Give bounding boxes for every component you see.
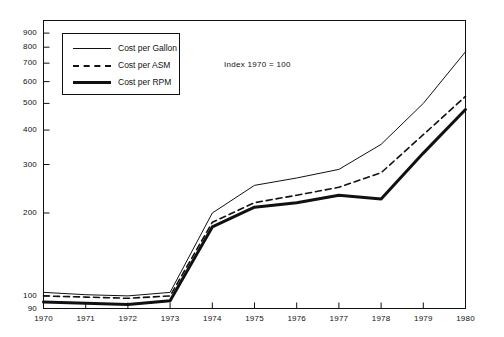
legend-item-cost-per-asm: Cost per ASM [63, 57, 181, 73]
y-tick-label: 300 [5, 160, 37, 169]
legend-item-cost-per-gallon: Cost per Gallon [63, 40, 181, 56]
y-tick-label: 200 [5, 208, 37, 217]
x-tick-label: 1980 [446, 314, 486, 323]
legend-swatch-dashed-line-icon [73, 60, 111, 70]
y-tick-label: 600 [5, 77, 37, 86]
y-tick-label: 90 [5, 304, 37, 313]
y-tick-label: 500 [5, 98, 37, 107]
legend-swatch-solid-line-icon [73, 43, 111, 53]
legend-item-cost-per-rpm: Cost per RPM [63, 74, 181, 90]
legend-swatch-thick-line-icon [73, 77, 111, 87]
x-tick-label: 1971 [66, 314, 106, 323]
x-tick-label: 1970 [24, 314, 64, 323]
x-tick-label: 1975 [235, 314, 275, 323]
x-tick-label: 1979 [403, 314, 443, 323]
index-annotation: Index 1970 = 100 [224, 60, 291, 69]
y-tick-label: 400 [5, 125, 37, 134]
x-tick-label: 1977 [319, 314, 359, 323]
legend-label-cost-per-gallon: Cost per Gallon [118, 43, 177, 53]
y-tick-label: 100 [5, 291, 37, 300]
x-tick-label: 1972 [108, 314, 148, 323]
legend-label-cost-per-rpm: Cost per RPM [118, 77, 171, 87]
y-tick-label: 900 [5, 28, 37, 37]
x-tick-label: 1974 [192, 314, 232, 323]
y-tick-label: 700 [5, 58, 37, 67]
x-tick-label: 1973 [150, 314, 190, 323]
chart-container: 90100200300400500600700800900 1970197119… [0, 0, 504, 337]
y-tick-label: 800 [5, 42, 37, 51]
legend-label-cost-per-asm: Cost per ASM [118, 60, 170, 70]
x-tick-label: 1976 [277, 314, 317, 323]
chart-legend: Cost per Gallon Cost per ASM Cost per RP… [62, 33, 180, 95]
x-tick-label: 1978 [361, 314, 401, 323]
